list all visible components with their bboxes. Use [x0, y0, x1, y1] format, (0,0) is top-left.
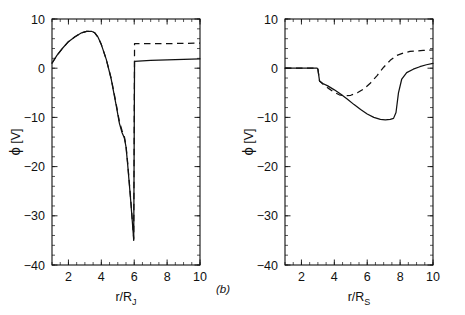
series-solid [52, 31, 200, 240]
x-tick-label: 4 [331, 270, 338, 284]
y-tick-label: −20 [257, 160, 278, 174]
x-axis-title-main: r/R [348, 290, 365, 304]
x-tick-label: 2 [298, 270, 305, 284]
y-tick-label: −10 [257, 111, 278, 125]
x-axis-title-sub: S [364, 297, 370, 307]
panel-a-svg: 246810100−10−20−30−40r/RJϕ [V] [0, 0, 232, 315]
panel-label-b: (b) [216, 283, 230, 295]
x-tick-label: 2 [65, 270, 72, 284]
x-axis-title: r/RS [348, 290, 371, 307]
y-tick-label: 10 [264, 13, 278, 27]
x-tick-label: 8 [397, 270, 404, 284]
plot-frame [52, 19, 200, 265]
y-tick-label: −30 [24, 209, 45, 223]
x-tick-label: 6 [131, 270, 138, 284]
y-tick-label: −40 [24, 259, 45, 273]
y-axis-title: ϕ [V] [239, 128, 256, 155]
chart-panel-a: 246810100−10−20−30−40r/RJϕ [V] [0, 0, 232, 315]
x-tick-label: 10 [193, 270, 207, 284]
panel-b-svg: 246810100−10−20−30−40r/RSϕ [V] [233, 0, 465, 315]
y-tick-label: −30 [257, 209, 278, 223]
plot-frame [285, 19, 433, 265]
panel-a-plot-area: 246810100−10−20−30−40r/RJϕ [V] [6, 13, 207, 307]
series-dashed [52, 31, 200, 239]
x-axis-title-sub: J [132, 297, 137, 307]
x-tick-label: 4 [98, 270, 105, 284]
x-tick-label: 10 [426, 270, 440, 284]
chart-panel-b: 246810100−10−20−30−40r/RSϕ [V] [233, 0, 465, 315]
y-axis-unit: [V] [242, 128, 256, 147]
y-tick-label: 0 [38, 62, 45, 76]
series-dashed [285, 50, 433, 96]
y-tick-label: 0 [271, 62, 278, 76]
y-tick-label: −10 [24, 111, 45, 125]
y-tick-label: −40 [257, 259, 278, 273]
x-tick-label: 6 [364, 270, 371, 284]
y-axis-title: ϕ [V] [6, 128, 23, 155]
panel-b-plot-area: 246810100−10−20−30−40r/RSϕ [V] [239, 13, 440, 307]
x-axis-title: r/RJ [115, 290, 136, 307]
x-axis-title-main: r/R [115, 290, 132, 304]
y-axis-symbol: ϕ [6, 147, 23, 155]
figure-root: 246810100−10−20−30−40r/RJϕ [V] 246810100… [0, 0, 465, 315]
y-axis-unit: [V] [9, 128, 23, 147]
y-axis-symbol: ϕ [239, 147, 256, 155]
y-tick-label: −20 [24, 160, 45, 174]
y-tick-label: 10 [31, 13, 45, 27]
x-tick-label: 8 [164, 270, 171, 284]
